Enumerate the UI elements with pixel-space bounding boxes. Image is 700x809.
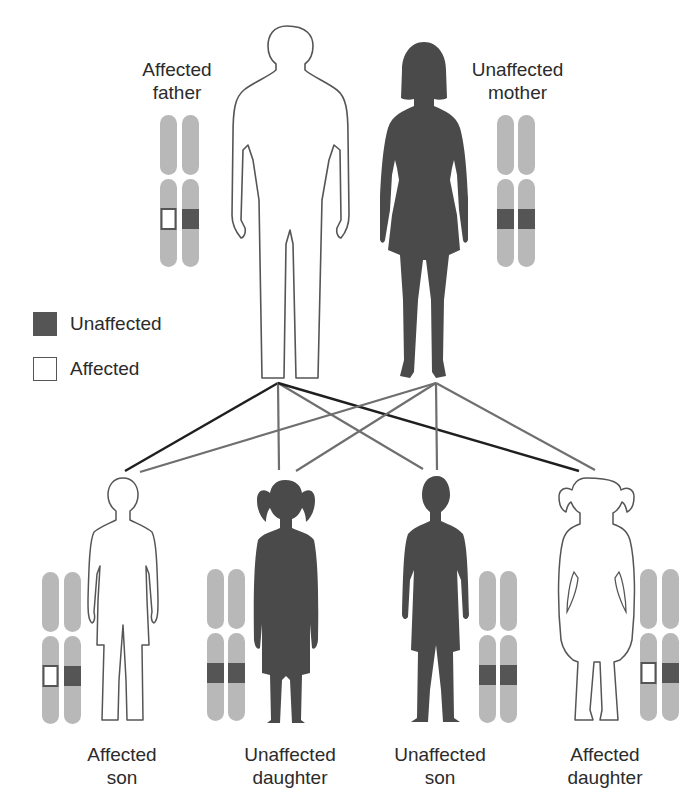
father-label-line1: Affected: [117, 58, 237, 81]
daughter-1-label-line1: Unaffected: [225, 743, 355, 766]
son-1-label-line1: Affected: [62, 743, 182, 766]
legend-affected-swatch: [33, 357, 57, 381]
mother-label: Unaffected mother: [455, 58, 580, 104]
daughter-2-label: Affected daughter: [545, 743, 665, 789]
line-mother-son1: [140, 383, 436, 472]
line-mother-daughter1: [296, 383, 436, 471]
son-2-figure: [402, 476, 469, 722]
son-2-chromosomes: [479, 571, 517, 723]
daughter-1-label: Unaffected daughter: [225, 743, 355, 789]
son-1-label: Affected son: [62, 743, 182, 789]
son-1-chromosomes: [42, 572, 81, 724]
daughter-1-chromosomes: [207, 569, 245, 721]
line-father-son2: [278, 383, 423, 469]
line-father-daughter2: [278, 383, 579, 471]
daughter-2-chromosomes: [640, 569, 679, 721]
father-label: Affected father: [117, 58, 237, 104]
daughter-1-label-line2: daughter: [225, 766, 355, 789]
son-1-label-line2: son: [62, 766, 182, 789]
inheritance-lines: [125, 383, 595, 472]
unaffected-allele: [518, 209, 535, 229]
father-figure: [232, 26, 349, 378]
son-2-label: Unaffected son: [375, 743, 505, 789]
line-mother-son2: [436, 383, 437, 470]
inheritance-diagram: [0, 0, 700, 809]
line-father-daughter1: [278, 383, 279, 470]
son-2-label-line1: Unaffected: [375, 743, 505, 766]
daughter-1-figure: [254, 480, 319, 723]
mother-label-line1: Unaffected: [455, 58, 580, 81]
father-chromosomes: [160, 115, 199, 267]
son-1-figure: [88, 478, 158, 720]
affected-allele: [162, 209, 176, 229]
legend-affected-label: Affected: [70, 358, 139, 380]
mother-label-line2: mother: [455, 81, 580, 104]
daughter-2-figure: [559, 478, 635, 720]
daughter-2-label-line1: Affected: [545, 743, 665, 766]
mother-chromosomes: [497, 115, 535, 267]
unaffected-allele: [497, 209, 514, 229]
line-mother-daughter2: [436, 383, 595, 470]
line-father-son1: [125, 383, 278, 471]
daughter-2-label-line2: daughter: [545, 766, 665, 789]
unaffected-allele: [182, 209, 199, 229]
legend-unaffected-label: Unaffected: [70, 313, 162, 335]
legend-unaffected-swatch: [33, 312, 57, 336]
father-label-line2: father: [117, 81, 237, 104]
son-2-label-line2: son: [375, 766, 505, 789]
